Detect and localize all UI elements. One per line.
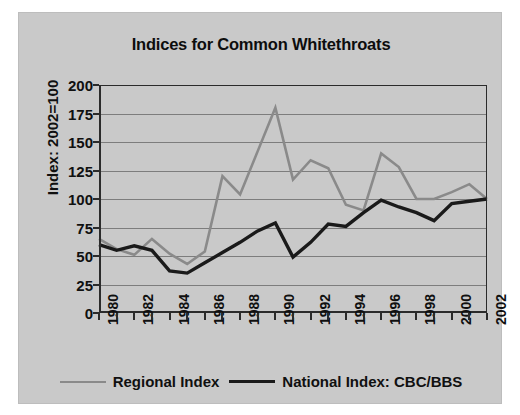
x-axis-tick-label: 2000 <box>458 294 474 325</box>
legend-item[interactable]: National Index: CBC/BBS <box>229 373 462 390</box>
y-axis-tick-label: 50 <box>47 248 93 265</box>
chart-legend: Regional IndexNational Index: CBC/BBS <box>19 373 503 390</box>
y-axis-tick-label: 150 <box>47 134 93 151</box>
x-axis-tick-mark <box>398 313 400 320</box>
y-axis-tick-label: 75 <box>47 219 93 236</box>
legend-label: Regional Index <box>113 373 220 390</box>
y-axis-tick-label: 175 <box>47 105 93 122</box>
x-axis-tick-mark <box>292 313 294 320</box>
y-axis-tick-mark <box>93 84 99 86</box>
x-axis-tick-label: 1998 <box>422 294 438 325</box>
x-axis-tick-mark <box>204 313 206 320</box>
plot-area <box>99 85 487 313</box>
x-axis-tick-label: 1996 <box>387 294 403 325</box>
x-axis-tick-label: 1982 <box>140 294 156 325</box>
plot-frame <box>99 85 487 313</box>
legend-item[interactable]: Regional Index <box>60 373 220 390</box>
x-axis-tick-mark <box>380 313 382 320</box>
x-axis-tick-mark <box>133 313 135 320</box>
x-axis-tick-mark <box>415 313 417 320</box>
x-axis-tick-mark <box>221 313 223 320</box>
y-axis-tick-mark <box>93 255 99 257</box>
x-axis-tick-label: 1994 <box>352 294 368 325</box>
x-axis-tick-mark <box>151 313 153 320</box>
x-axis-tick-mark <box>345 313 347 320</box>
x-axis-tick-mark <box>451 313 453 320</box>
x-axis-tick-mark <box>433 313 435 320</box>
chart-figure: Indices for Common Whitethroats Index: 2… <box>0 0 520 415</box>
x-axis-tick-label: 1986 <box>211 294 227 325</box>
x-axis-tick-mark <box>274 313 276 320</box>
y-axis-tick-mark <box>93 312 99 314</box>
legend-label: National Index: CBC/BBS <box>282 373 462 390</box>
x-axis-tick-mark <box>468 313 470 320</box>
y-axis-tick-mark <box>93 198 99 200</box>
legend-swatch-national <box>229 380 275 383</box>
y-axis-tick-mark <box>93 141 99 143</box>
x-axis-tick-label: 1980 <box>105 294 121 325</box>
y-axis-tick-mark <box>93 284 99 286</box>
x-axis-tick-mark <box>327 313 329 320</box>
y-axis-tick-label: 100 <box>47 191 93 208</box>
x-axis-tick-mark <box>98 313 100 320</box>
y-axis-tick-label: 200 <box>47 77 93 94</box>
y-axis-tick-labels: 0255075100125150175200 <box>41 85 93 313</box>
x-axis-tick-mark <box>486 313 488 320</box>
y-axis-tick-mark <box>93 113 99 115</box>
x-axis-tick-mark <box>169 313 171 320</box>
x-axis-tick-mark <box>116 313 118 320</box>
y-axis-tick-label: 125 <box>47 162 93 179</box>
x-axis-tick-label: 1984 <box>176 294 192 325</box>
y-axis-tick-mark <box>93 170 99 172</box>
x-axis-tick-mark <box>363 313 365 320</box>
y-axis-tick-mark <box>93 227 99 229</box>
x-axis-tick-label: 2002 <box>493 294 509 325</box>
chart-plate: Indices for Common Whitethroats Index: 2… <box>18 12 502 404</box>
y-axis-tick-label: 25 <box>47 276 93 293</box>
legend-swatch-regional <box>60 381 106 383</box>
y-axis-tick-label: 0 <box>47 305 93 322</box>
x-axis-tick-mark <box>186 313 188 320</box>
x-axis-tick-mark <box>239 313 241 320</box>
chart-title: Indices for Common Whitethroats <box>19 35 503 54</box>
x-axis-tick-label: 1990 <box>281 294 297 325</box>
x-axis-tick-label: 1988 <box>246 294 262 325</box>
x-axis-tick-mark <box>257 313 259 320</box>
x-axis-tick-label: 1992 <box>317 294 333 325</box>
x-axis-tick-mark <box>310 313 312 320</box>
